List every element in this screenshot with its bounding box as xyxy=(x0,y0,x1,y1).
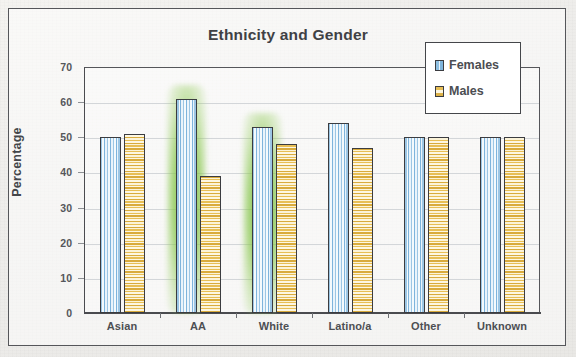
x-tick-mark xyxy=(464,313,465,318)
chart-legend: Females Males xyxy=(425,42,521,114)
bar-latino-a-females xyxy=(328,123,349,313)
bar-white-males xyxy=(276,144,297,313)
x-tick-label-white: White xyxy=(236,320,312,332)
y-tick-label: 10 xyxy=(38,272,72,284)
x-tick-mark xyxy=(312,313,313,318)
x-tick-mark xyxy=(388,313,389,318)
gridline xyxy=(85,138,539,139)
y-tick-label: 60 xyxy=(38,96,72,108)
bar-asian-males xyxy=(124,134,145,313)
bar-unknown-females xyxy=(480,137,501,313)
y-tick-label: 30 xyxy=(38,202,72,214)
x-tick-mark xyxy=(236,313,237,318)
x-tick-label-unknown: Unknown xyxy=(464,320,540,332)
y-axis-ticks: 010203040506070 xyxy=(0,0,78,357)
gridline xyxy=(85,279,539,280)
bar-aa-males xyxy=(200,176,221,313)
bar-latino-a-males xyxy=(352,148,373,313)
bar-white-females xyxy=(252,127,273,313)
x-tick-label-aa: AA xyxy=(160,320,236,332)
x-tick-label-asian: Asian xyxy=(84,320,160,332)
y-tick-label: 20 xyxy=(38,237,72,249)
bar-aa-females xyxy=(176,99,197,313)
legend-label-males: Males xyxy=(449,84,484,98)
y-tick-label: 0 xyxy=(38,307,72,319)
x-tick-mark xyxy=(160,313,161,318)
bar-unknown-males xyxy=(504,137,525,313)
scanned-page: Ethnicity and Gender Percentage 01020304… xyxy=(0,0,576,357)
bar-other-males xyxy=(428,137,449,313)
x-tick-label-other: Other xyxy=(388,320,464,332)
y-tick-label: 50 xyxy=(38,131,72,143)
bar-other-females xyxy=(404,137,425,313)
gridline xyxy=(85,209,539,210)
legend-item-females: Females xyxy=(435,52,520,78)
gridline xyxy=(85,173,539,174)
legend-item-males: Males xyxy=(435,78,520,104)
legend-label-females: Females xyxy=(449,58,499,72)
females-swatch-icon xyxy=(435,60,444,71)
y-tick-label: 70 xyxy=(38,61,72,73)
males-swatch-icon xyxy=(435,86,444,97)
gridline xyxy=(85,244,539,245)
y-tick-label: 40 xyxy=(38,166,72,178)
bar-asian-females xyxy=(100,137,121,313)
x-tick-label-latino-a: Latino/a xyxy=(312,320,388,332)
